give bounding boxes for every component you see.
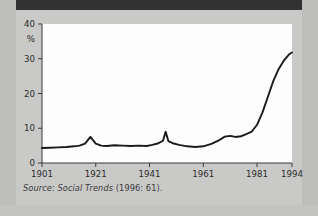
x-tick-label: 1921 xyxy=(85,169,107,179)
y-tick-label: 10 xyxy=(24,123,35,133)
caption-publication-title: Social Trends xyxy=(57,183,113,193)
caption-citation: (1996: 61). xyxy=(116,183,163,193)
y-axis-unit-label: % xyxy=(27,34,35,44)
x-tick-label: 1961 xyxy=(192,169,214,179)
figure-root: % 010203040 190119211941196119811994 Sou… xyxy=(0,0,318,216)
x-tick-label: 1901 xyxy=(31,169,53,179)
y-tick-label: 0 xyxy=(30,158,35,168)
caption-source-label: Source: xyxy=(23,183,55,193)
x-tick-label: 1941 xyxy=(139,169,161,179)
chart-svg: % 010203040 190119211941196119811994 xyxy=(0,10,318,180)
line-chart: % 010203040 190119211941196119811994 xyxy=(0,10,318,180)
page-bottom-edge xyxy=(0,205,318,216)
y-tick-label: 20 xyxy=(24,89,35,99)
y-tick-label: 40 xyxy=(24,19,35,29)
y-axis-ticks xyxy=(38,24,42,163)
x-axis-tick-labels: 190119211941196119811994 xyxy=(31,169,303,179)
x-tick-label: 1994 xyxy=(281,169,303,179)
plot-background xyxy=(42,24,292,163)
page-header-bar xyxy=(16,0,302,10)
x-tick-label: 1981 xyxy=(246,169,268,179)
x-axis-ticks xyxy=(42,163,292,167)
y-tick-label: 30 xyxy=(24,54,35,64)
figure-source-caption: Source: Social Trends (1996: 61). xyxy=(23,183,293,193)
